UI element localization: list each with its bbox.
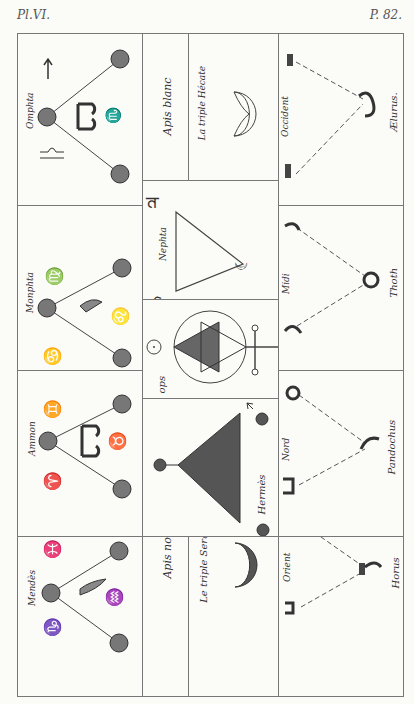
panel-ammon: ♊ ♈ ♉ Ammon: [17, 370, 143, 537]
panel-thoth: Midi Thoth: [278, 205, 404, 371]
aelurus-diagram-icon: [279, 34, 404, 206]
svg-text:♉: ♉: [108, 431, 127, 451]
thoth-diagram-icon: [279, 206, 404, 371]
plate-label: Pl.VI.: [17, 8, 50, 22]
panel-nephta: ♃ ♄ ☾ Nephta: [142, 180, 279, 300]
svg-text:♃: ♃: [143, 195, 163, 211]
panel-triple-hecate: La triple Hécate: [188, 33, 279, 181]
aelurus-label: Ælurus.: [388, 88, 399, 132]
monphta-label: Monphta: [25, 269, 35, 313]
svg-text:♏: ♏: [105, 107, 122, 124]
svg-text:♍: ♍: [45, 266, 64, 286]
panel-monphta: ♍ ♋ ♌ Monphta: [17, 205, 143, 371]
svg-text:♈: ♈: [43, 471, 62, 491]
mendes-label: Mendès: [27, 566, 37, 606]
orient-label: Orient: [282, 546, 292, 582]
page-label: P. 82.: [370, 8, 402, 22]
ammon-label: Ammon: [27, 416, 37, 456]
mendes-diagram-icon: ♓ ♑ ♒: [18, 537, 143, 697]
svg-text:♑: ♑: [43, 617, 62, 637]
panel-horus: Orient Horus: [278, 536, 404, 697]
midi-label: Midi: [281, 264, 291, 294]
hermes-label: Hermès: [256, 471, 267, 515]
svg-text:♌: ♌: [111, 306, 130, 326]
panel-omphta: ♏ Omphta: [17, 33, 143, 206]
panel-hermes: Hermès: [142, 398, 279, 537]
svg-text:♊: ♊: [43, 399, 62, 419]
omphta-diagram-icon: ♏: [18, 34, 143, 206]
nephta-label: Nephta: [158, 221, 168, 261]
apis-blanc-label: Apis blanc: [161, 57, 174, 157]
ops-label: ops: [156, 370, 167, 394]
apis-noir-label: Apis noir: [161, 536, 174, 604]
horus-label: Horus: [390, 549, 401, 589]
omphta-label: Omphta: [25, 89, 35, 129]
panel-aelurus: Occident Ælurus.: [278, 33, 404, 206]
panel-ops: ops: [142, 299, 279, 399]
panel-pandochus: Nord Pandochus: [278, 370, 404, 537]
thoth-label: Thoth: [388, 258, 399, 298]
svg-text:♒: ♒: [105, 587, 124, 607]
monphta-diagram-icon: ♍ ♋ ♌: [18, 206, 143, 371]
panel-apis-blanc: Apis blanc: [142, 33, 189, 181]
nord-label: Nord: [281, 431, 291, 461]
svg-text:☾: ☾: [232, 257, 251, 271]
svg-text:♓: ♓: [43, 539, 62, 559]
dark-crescent-icon: [189, 537, 279, 697]
panel-triple-serapis: Le triple Serapis: [188, 536, 279, 697]
svg-text:♋: ♋: [43, 346, 62, 366]
pandochus-label: Pandochus: [386, 411, 397, 475]
crescent-icon: [189, 34, 279, 181]
occident-label: Occident: [280, 89, 290, 137]
hermes-triangle-icon: [143, 399, 279, 537]
panel-mendes: ♓ ♑ ♒ Mendès: [17, 536, 143, 697]
panel-apis-noir: Apis noir: [142, 536, 189, 697]
horus-diagram-icon: [279, 537, 404, 697]
